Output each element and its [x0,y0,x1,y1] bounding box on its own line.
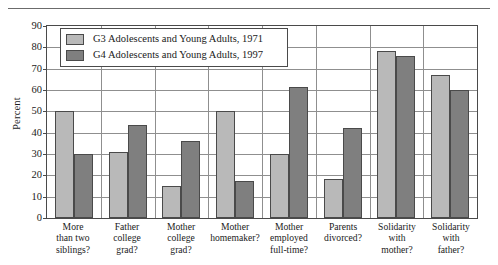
bar-group [423,26,477,218]
bar [324,179,343,218]
y-tick-label: 70 [32,63,43,74]
bar [181,141,200,218]
y-tick-label: 60 [32,85,43,96]
legend-item-g3: G3 Adolescents and Young Adults, 1971 [66,32,282,46]
bar [377,51,396,218]
x-tick-label: Mothercollegegrad? [154,221,208,255]
x-tick-label: Fathercollegegrad? [100,221,154,255]
bar [216,111,235,218]
legend-swatch-g3 [66,34,84,45]
bar [162,186,181,218]
bar [55,111,74,218]
y-tick-label: 80 [32,42,43,53]
bar-group [370,26,424,218]
y-tick-mark [43,218,47,219]
y-axis-title: Percent [11,74,22,154]
x-tick-label: Motheremployedfull-time? [262,221,316,255]
bar [270,154,289,218]
legend-label-g4: G4 Adolescents and Young Adults, 1997 [93,50,263,61]
x-tick-label: Solidaritywithmother? [370,221,424,255]
y-tick-label: 90 [32,21,43,32]
x-axis-labels: Morethan twosiblings?Fathercollegegrad?M… [46,221,478,255]
bar [431,75,450,218]
bar-group [316,26,370,218]
y-tick-label: 0 [37,213,42,224]
bar [450,90,469,218]
legend-swatch-g4 [66,50,84,61]
x-tick-label: Motherhomemaker? [208,221,262,255]
legend: G3 Adolescents and Young Adults, 1971 G4… [60,28,288,67]
x-tick-label: Parentsdivorced? [316,221,370,255]
bar [128,125,147,218]
y-tick-label: 30 [32,149,43,160]
y-tick-label: 10 [32,191,43,202]
bar [289,87,308,218]
y-tick-label: 20 [32,170,43,181]
x-tick-label: Solidaritywithfather? [424,221,478,255]
x-tick-label: Morethan twosiblings? [46,221,100,255]
bar [235,181,254,218]
y-tick-label: 40 [32,127,43,138]
bar [343,128,362,218]
bar [109,152,128,218]
bar [74,154,93,218]
top-divider-rule [8,8,490,9]
bar [396,56,415,218]
y-tick-label: 50 [32,106,43,117]
figure: Percent 0102030405060708090 G3 Adolescen… [0,0,498,265]
legend-label-g3: G3 Adolescents and Young Adults, 1971 [93,34,263,45]
legend-item-g4: G4 Adolescents and Young Adults, 1997 [66,48,282,62]
